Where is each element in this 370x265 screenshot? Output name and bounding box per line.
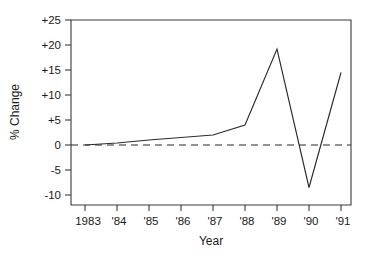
x-tick-label-1990: '90	[304, 215, 319, 227]
x-tick-label-1989: '89	[272, 215, 287, 227]
x-tick-label-1986: '86	[176, 215, 191, 227]
y-axis-title: % Change	[8, 84, 22, 140]
x-tick-label-1983: 1983	[75, 215, 101, 227]
line-chart: +25 +20 +15 +10 +5 0 -5 -10 1983 '84 '85	[0, 0, 370, 265]
data-series-line	[85, 49, 341, 188]
y-tick-label-25: +25	[41, 14, 61, 26]
y-tick-label-0: 0	[55, 139, 61, 151]
y-axis-ticks	[65, 20, 71, 195]
x-tick-label-1991: '91	[336, 215, 351, 227]
y-tick-label-minus10: -10	[44, 189, 61, 201]
plot-frame	[71, 20, 351, 205]
y-tick-label-10: +10	[41, 89, 61, 101]
y-tick-label-5: +5	[48, 114, 61, 126]
x-tick-label-1985: '85	[144, 215, 159, 227]
y-axis-tick-labels: +25 +20 +15 +10 +5 0 -5 -10	[41, 14, 61, 201]
x-tick-label-1987: '87	[208, 215, 223, 227]
x-tick-label-1984: '84	[112, 215, 128, 227]
x-tick-label-1988: '88	[240, 215, 255, 227]
x-axis-tick-labels: 1983 '84 '85 '86 '87 '88 '89 '90 '91	[75, 215, 350, 227]
x-axis-title: Year	[199, 234, 223, 248]
y-tick-label-20: +20	[41, 39, 61, 51]
chart-container: +25 +20 +15 +10 +5 0 -5 -10 1983 '84 '85	[0, 0, 370, 265]
y-tick-label-minus5: -5	[51, 164, 61, 176]
x-axis-ticks	[85, 205, 341, 211]
y-tick-label-15: +15	[41, 64, 61, 76]
